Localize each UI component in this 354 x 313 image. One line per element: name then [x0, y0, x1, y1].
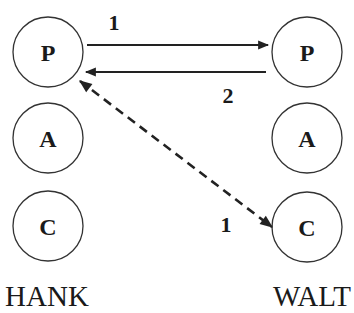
- walt-node-c: C: [272, 192, 342, 262]
- hank-node-p-label: P: [41, 40, 56, 66]
- edge-label-1: 1: [109, 10, 120, 35]
- hank-node-c-label: C: [39, 214, 56, 240]
- edge-label-dashed-1: 1: [221, 212, 232, 237]
- edge-label-2: 2: [223, 83, 234, 108]
- walt-node-p: P: [272, 17, 342, 87]
- hank-node-c: C: [13, 191, 83, 261]
- walt-node-a: A: [272, 103, 342, 173]
- edge-walt-c-to-hank-p-dashed: [80, 81, 272, 227]
- hank-node-a: A: [13, 103, 83, 173]
- actor-label-hank: HANK: [5, 280, 89, 312]
- hank-node-p: P: [13, 17, 83, 87]
- walt-node-c-label: C: [298, 215, 315, 241]
- actor-label-walt: WALT: [273, 280, 351, 312]
- walt-node-a-label: A: [298, 126, 316, 152]
- walt-node-p-label: P: [300, 40, 315, 66]
- transaction-diagram: P A C P A C 1 2 1 HANK WALT: [0, 0, 354, 313]
- hank-node-a-label: A: [39, 126, 57, 152]
